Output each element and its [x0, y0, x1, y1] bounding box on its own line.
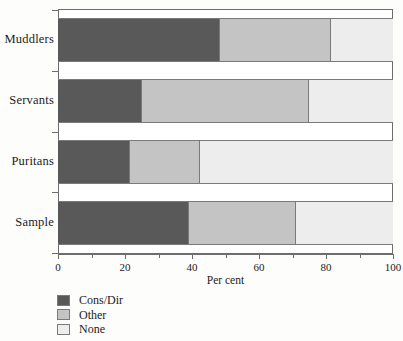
x-axis-title: Per cent	[58, 274, 393, 286]
category-label-puritans: Puritans	[11, 154, 54, 169]
stacked-bar-chart-figure: MuddlersServantsPuritansSample 020406080…	[0, 0, 403, 341]
bar-segment-cons-dir	[58, 18, 220, 62]
y-axis-tick	[52, 192, 58, 193]
bar-segment-other	[220, 18, 331, 62]
bar-segment-none	[200, 140, 393, 184]
bar-segment-other	[189, 201, 296, 245]
x-tick-minor	[293, 254, 294, 258]
x-tick-major	[393, 254, 394, 259]
x-tick-label: 60	[239, 261, 279, 273]
bar-segment-cons-dir	[58, 140, 130, 184]
bar-sample	[0, 201, 403, 245]
stacked-bar	[0, 79, 403, 123]
legend-swatch-icon	[57, 309, 70, 320]
x-tick-label: 0	[38, 261, 78, 273]
x-tick-major	[125, 254, 126, 259]
x-tick-label: 20	[105, 261, 145, 273]
bar-segment-other	[142, 79, 310, 123]
legend-item-none: None	[57, 322, 123, 337]
category-label-muddlers: Muddlers	[4, 32, 54, 47]
x-tick-major	[326, 254, 327, 259]
legend-label: Cons/Dir	[79, 294, 123, 306]
legend-swatch-icon	[57, 324, 70, 335]
legend-label: None	[79, 323, 105, 335]
y-axis-tick	[52, 132, 58, 133]
x-tick-major	[192, 254, 193, 259]
legend-item-cons-dir: Cons/Dir	[57, 293, 123, 308]
x-tick-label: 80	[306, 261, 346, 273]
y-axis-tick	[52, 10, 58, 11]
y-axis-tick	[52, 71, 58, 72]
x-tick-major	[259, 254, 260, 259]
legend: Cons/DirOtherNone	[57, 293, 123, 337]
x-tick-minor	[92, 254, 93, 258]
x-tick-minor	[360, 254, 361, 258]
x-tick-label: 40	[172, 261, 212, 273]
legend-label: Other	[79, 309, 106, 321]
bar-muddlers	[0, 18, 403, 62]
bar-segment-none	[296, 201, 393, 245]
x-tick-minor	[159, 254, 160, 258]
bar-segment-none	[331, 18, 393, 62]
x-tick-major	[58, 254, 59, 259]
stacked-bar	[0, 201, 403, 245]
category-label-servants: Servants	[9, 93, 54, 108]
bar-segment-cons-dir	[58, 79, 142, 123]
category-label-sample: Sample	[15, 215, 54, 230]
bar-segment-cons-dir	[58, 201, 189, 245]
legend-swatch-icon	[57, 295, 70, 306]
stacked-bar	[0, 140, 403, 184]
stacked-bar	[0, 18, 403, 62]
x-tick-minor	[226, 254, 227, 258]
x-tick-label: 100	[373, 261, 403, 273]
bar-segment-other	[130, 140, 200, 184]
legend-item-other: Other	[57, 308, 123, 323]
bar-puritans	[0, 140, 403, 184]
bar-segment-none	[309, 79, 393, 123]
bar-servants	[0, 79, 403, 123]
